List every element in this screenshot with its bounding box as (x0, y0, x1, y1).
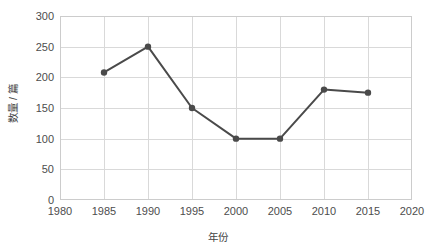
plot-svg (60, 16, 412, 200)
data-point (321, 86, 327, 92)
data-point (189, 105, 195, 111)
x-axis-tick-labels: 198019851990199520002005201020152020 (0, 205, 436, 225)
y-tick-label: 200 (18, 71, 54, 83)
data-point (101, 69, 107, 75)
y-tick-label: 300 (18, 10, 54, 22)
data-point (145, 43, 151, 49)
data-point (233, 135, 239, 141)
line-chart: 数量 / 篇 年份 050100150200250300 19801985199… (0, 0, 436, 249)
x-axis-title: 年份 (0, 229, 436, 244)
data-point (277, 135, 283, 141)
y-tick-label: 250 (18, 41, 54, 53)
y-tick-label: 100 (18, 133, 54, 145)
series-markers (101, 43, 371, 141)
data-point (365, 89, 371, 95)
plot-area (60, 16, 412, 200)
y-tick-label: 150 (18, 102, 54, 114)
x-tick-label: 2020 (382, 205, 436, 217)
y-tick-label: 50 (18, 163, 54, 175)
